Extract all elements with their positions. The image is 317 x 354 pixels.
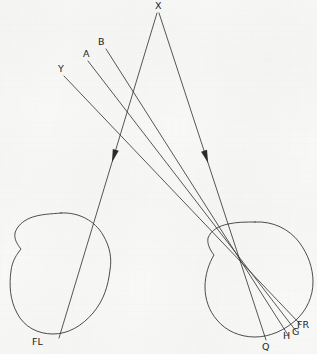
label-x: X — [155, 0, 162, 11]
label-q: Q — [262, 341, 269, 352]
ray-b-to-h — [106, 49, 288, 335]
arrowhead-left-ray — [112, 149, 119, 162]
label-b: B — [98, 36, 105, 47]
ray-x-to-fl — [59, 13, 157, 338]
left-eye-outline — [10, 213, 111, 334]
ray-y-to-fr — [64, 76, 300, 324]
ray-x-to-q — [159, 13, 266, 340]
label-fl: FL — [32, 336, 43, 347]
figure-root: X B A Y FL Q H G FR — [0, 0, 317, 354]
point-labels: X B A Y FL Q H G FR — [32, 0, 309, 352]
arrowhead-right-ray — [201, 150, 208, 163]
ray-diagram-svg: X B A Y FL Q H G FR — [0, 0, 317, 354]
ray-a-to-g — [88, 61, 296, 331]
eye-outlines — [10, 213, 313, 337]
label-a: A — [83, 48, 90, 59]
label-fr: FR — [297, 319, 309, 330]
ray-arrowheads — [112, 149, 208, 163]
label-y: Y — [57, 63, 64, 74]
ray-lines — [59, 13, 300, 340]
label-h: H — [283, 330, 290, 341]
